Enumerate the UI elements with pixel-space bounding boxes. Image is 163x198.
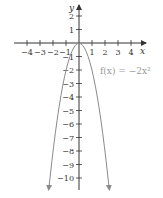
- x-tick-label: −4: [21, 48, 33, 57]
- x-tick-label: −3: [34, 48, 46, 57]
- y-axis-label: y: [68, 3, 75, 13]
- x-tick-label: 4: [128, 48, 133, 57]
- curve-arrow-right: [108, 178, 109, 190]
- x-tick-label: 2: [102, 48, 107, 57]
- y-tick-label: −5: [62, 107, 74, 116]
- y-tick-label: −8: [62, 147, 74, 156]
- x-axis-label: x: [140, 46, 145, 56]
- y-tick-label: −1: [62, 53, 74, 62]
- y-tick-label: 1: [69, 26, 74, 35]
- x-tick-label: 3: [115, 48, 120, 57]
- y-tick-label: 2: [69, 12, 74, 21]
- y-tick-label: −2: [62, 66, 74, 75]
- y-tick-label: −10: [57, 174, 74, 183]
- x-tick-labels: −4 −3 −2 −1 1 2 3 4: [21, 48, 133, 57]
- y-tick-label: −7: [62, 134, 74, 143]
- y-tick-labels: 2 1 −1 −2 −3 −4 −5 −6 −7 −8 −9 −10: [57, 12, 74, 183]
- y-tick-label: −9: [62, 161, 74, 170]
- y-tick-label: −6: [62, 120, 74, 129]
- function-label: f(x) = −2x²: [100, 66, 151, 76]
- x-tick-label: 1: [89, 48, 94, 57]
- curve-arrow-left: [49, 178, 50, 190]
- y-tick-label: −4: [62, 93, 74, 102]
- graph-canvas: −4 −3 −2 −1 1 2 3 4 2 1 −1 −2 −3 −4 −5 −…: [0, 0, 163, 198]
- parabola-graph: −4 −3 −2 −1 1 2 3 4 2 1 −1 −2 −3 −4 −5 −…: [0, 0, 163, 198]
- x-tick-label: −2: [47, 48, 59, 57]
